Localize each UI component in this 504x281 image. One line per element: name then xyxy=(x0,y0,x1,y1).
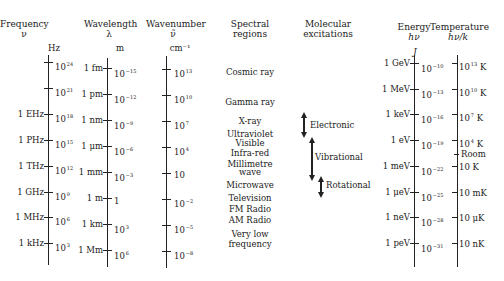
spectral-region: Visible xyxy=(236,138,265,148)
frequency-named-label: 1 GHz xyxy=(17,187,44,197)
tick-exponent: −8 xyxy=(186,250,193,256)
wavelength-unit: m xyxy=(110,43,130,53)
temperature-tick xyxy=(452,217,458,218)
frequency-named-label: 1 PHz xyxy=(18,135,44,145)
vibrational-label: Vibrational xyxy=(315,152,363,162)
tick-base: 10 xyxy=(55,62,66,72)
temperature-value-label: 1010 K xyxy=(459,85,486,98)
tick-exponent: 6 xyxy=(126,250,129,256)
frequency-value-label: 1018 xyxy=(55,111,73,124)
temperature-value-label: 1013 K xyxy=(459,59,486,72)
temperature-value-label: 10 nK xyxy=(459,239,484,249)
energy-named-label: 1 keV xyxy=(386,109,410,119)
frequency-named-label: 1 kHz xyxy=(19,238,44,248)
energy-tick xyxy=(410,243,419,244)
energy-value-label: 10−19 xyxy=(421,138,443,151)
tick-base: 10 xyxy=(174,69,185,79)
tick-base: 10 xyxy=(114,121,125,131)
temperature-tick xyxy=(452,63,458,64)
frequency-value-label: 1024 xyxy=(55,59,73,72)
wavelength-value-label: 10−15 xyxy=(114,66,136,79)
tick-base: 10 xyxy=(421,218,432,228)
energy-named-label: 1 peV xyxy=(385,238,410,248)
wavelength-named-label: 1 km xyxy=(82,219,103,229)
tick-exponent: −16 xyxy=(433,114,444,120)
energy-named-label: 1 GeV xyxy=(384,58,410,68)
tick-exponent: −12 xyxy=(126,94,137,100)
temperature-symbol: hν/k xyxy=(430,32,486,42)
tick-exponent: 9 xyxy=(67,191,70,197)
wavelength-value-label: 106 xyxy=(114,248,129,261)
tick-exponent: 15 xyxy=(67,139,73,145)
wavenumber-tick xyxy=(162,173,171,174)
spectral-region: Very low xyxy=(231,229,268,239)
tick-base: 10 mK xyxy=(459,188,487,198)
molecular-title-line2: excitations xyxy=(296,29,360,39)
energy-value-label: 10−31 xyxy=(421,241,443,254)
tick-base: 10 nK xyxy=(459,239,484,249)
wavelength-tick xyxy=(103,224,112,225)
wavenumber-title: Wavenumber xyxy=(146,19,200,29)
tick-exponent: 12 xyxy=(67,165,73,171)
tick-exponent: 24 xyxy=(67,61,73,67)
tick-exponent: 13 xyxy=(186,68,192,74)
tick-exponent: −19 xyxy=(433,140,444,146)
temperature-value-label: 10 μK xyxy=(459,213,484,223)
spectral-region: AM Radio xyxy=(229,215,271,225)
tick-exponent: −2 xyxy=(186,198,193,204)
energy-named-label: 1 MeV xyxy=(382,84,410,94)
tick-base: 10 xyxy=(174,121,185,131)
tick-exponent: 6 xyxy=(67,216,70,222)
wavelength-named-label: 1 nm xyxy=(81,115,103,125)
wavenumber-tick xyxy=(162,69,171,70)
frequency-value-label: 1021 xyxy=(55,85,73,98)
energy-tick xyxy=(410,217,419,218)
wavelength-named-label: 1 pm xyxy=(81,89,103,99)
frequency-value-label: 1015 xyxy=(55,137,73,150)
tick-exponent: −28 xyxy=(433,217,444,223)
energy-named-label: 1 eV xyxy=(391,135,410,145)
tick-base: 10 xyxy=(421,115,432,125)
frequency-tick xyxy=(44,192,53,193)
tick-unit: K xyxy=(474,113,483,123)
tick-exponent: 4 xyxy=(186,146,189,152)
frequency-tick xyxy=(44,62,53,63)
spectral-region: FM Radio xyxy=(229,204,271,214)
wavelength-header: Wavelength λ xyxy=(84,19,134,39)
energy-tick xyxy=(410,89,419,90)
wavelength-tick xyxy=(103,94,112,95)
energy-value-label: 10−28 xyxy=(421,215,443,228)
room-tick xyxy=(454,154,459,155)
wavelength-value-label: 1 xyxy=(114,196,119,206)
frequency-value-label: 103 xyxy=(55,240,70,253)
spectral-region: Infra-red xyxy=(231,148,270,158)
wavelength-value-label: 103 xyxy=(114,222,129,235)
tick-base: 10 xyxy=(421,193,432,203)
wavelength-value-label: 10−3 xyxy=(114,170,133,183)
tick-base: 10 xyxy=(114,147,125,157)
wavenumber-value-label: 10−8 xyxy=(174,248,193,261)
temperature-value-label: 104 K xyxy=(459,136,483,149)
wavelength-value-label: 10−12 xyxy=(114,92,136,105)
spectral-regions-header: Spectral regions xyxy=(222,19,278,39)
tick-base: 10 xyxy=(174,147,185,157)
spectral-region: Gamma ray xyxy=(225,97,275,107)
molecular-title-line1: Molecular xyxy=(296,19,360,29)
tick-exponent: −6 xyxy=(126,146,133,152)
tick-base: 10 xyxy=(459,88,470,98)
wavenumber-tick xyxy=(162,147,171,148)
wavenumber-tick xyxy=(162,251,171,252)
spectral-region: wave xyxy=(239,167,261,177)
wavelength-named-label: 1 fm xyxy=(84,63,103,73)
tick-base: 10 xyxy=(114,225,125,235)
wavelength-tick xyxy=(103,68,112,69)
wavenumber-value-label: 10 xyxy=(174,170,185,180)
tick-base: 10 xyxy=(174,251,185,261)
spectral-region: Microwave xyxy=(226,180,274,190)
energy-symbol: hν xyxy=(396,32,432,42)
wavenumber-tick xyxy=(162,121,171,122)
frequency-value-label: 1012 xyxy=(55,163,73,176)
tick-base: 10 xyxy=(114,251,125,261)
energy-value-label: 10−22 xyxy=(421,164,443,177)
rotational-label: Rotational xyxy=(326,180,371,190)
